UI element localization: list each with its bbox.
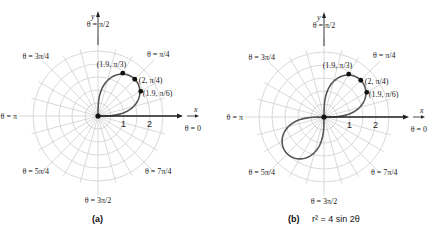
point-label: (1.9, π/6): [369, 90, 399, 99]
ring-label: 1: [121, 119, 126, 129]
plotted-point: [358, 78, 363, 83]
grid-spoke: [324, 117, 342, 184]
grid-spoke: [42, 116, 98, 172]
point-label: (1.9, π/3): [323, 61, 353, 70]
x-axis-label: x: [193, 105, 198, 114]
grid-spoke: [264, 83, 324, 118]
grid-spoke: [98, 116, 133, 176]
grid-spoke: [31, 98, 98, 116]
grid-spoke: [324, 99, 391, 117]
point-label: (2, π/4): [365, 77, 389, 86]
grid-spoke: [98, 98, 165, 116]
angle-label: θ = 3π/2: [85, 196, 112, 205]
grid-spoke: [38, 116, 98, 151]
plotted-point: [120, 71, 125, 76]
grid-spoke: [98, 116, 165, 134]
grid-spoke: [257, 117, 324, 135]
angle-label: θ = 3π/4: [248, 53, 275, 62]
panel-caption: (b): [288, 214, 300, 224]
ring-label: 2: [147, 119, 152, 129]
grid-spoke: [306, 50, 324, 117]
grid-spoke: [290, 57, 325, 117]
origin-pole: [95, 113, 100, 118]
angle-label: θ = 0: [185, 124, 201, 133]
angle-label: θ = π/4: [147, 50, 170, 59]
plotted-point: [132, 77, 137, 82]
origin-pole: [321, 114, 326, 119]
angle-label: θ = 3π/2: [311, 197, 338, 206]
panel-caption: (a): [92, 214, 103, 224]
angle-label: θ = π/4: [373, 51, 396, 60]
grid-spoke: [268, 61, 324, 117]
plotted-point: [346, 72, 351, 77]
angle-label: θ = π: [227, 113, 243, 122]
grid-spoke: [324, 117, 391, 135]
grid-spoke: [306, 117, 324, 184]
polar-graph-figure: xy12θ = π/2θ = π/4θ = 3π/4θ = πθ = 0θ = …: [0, 0, 428, 239]
point-label: (1.9, π/6): [143, 89, 173, 98]
y-axis-arrow-icon: [96, 11, 100, 17]
x-axis-arrow-icon: [177, 114, 183, 119]
x-axis-label: x: [419, 106, 424, 115]
point-label: (2, π/4): [139, 76, 163, 85]
grid-spoke: [31, 116, 98, 134]
x-axis-extension-arrow-icon: [195, 114, 199, 118]
grid-spoke: [64, 56, 99, 116]
angle-label: θ = 0: [411, 125, 427, 134]
angle-label: θ = 7π/4: [145, 167, 172, 176]
angle-label: θ = π/2: [87, 20, 110, 29]
grid-spoke: [80, 49, 98, 116]
y-axis-arrow-icon: [322, 12, 326, 18]
panel-b-polar-plot: xy12θ = π/2θ = π/4θ = 3π/4θ = πθ = 0θ = …: [227, 12, 427, 224]
panel-a-polar-plot: xy12θ = π/2θ = π/4θ = 3π/4θ = πθ = 0θ = …: [1, 11, 201, 224]
grid-spoke: [324, 117, 359, 177]
angle-label: θ = 3π/4: [22, 52, 49, 61]
angle-label: θ = 7π/4: [371, 168, 398, 177]
x-axis-extension-arrow-icon: [421, 115, 425, 119]
angle-label: θ = π: [1, 112, 17, 121]
grid-spoke: [98, 116, 116, 183]
grid-spoke: [38, 82, 98, 117]
angle-label: θ = π/2: [313, 21, 336, 30]
grid-spoke: [268, 117, 324, 173]
angle-label: θ = 5π/4: [22, 167, 49, 176]
grid-spoke: [80, 116, 98, 183]
grid-spoke: [64, 116, 99, 176]
point-label: (1.9, π/3): [97, 60, 127, 69]
ring-label: 2: [373, 120, 378, 130]
x-axis-arrow-icon: [403, 115, 409, 120]
curve-equation: r² = 4 sin 2θ: [312, 214, 360, 224]
angle-label: θ = 5π/4: [248, 168, 275, 177]
grid-spoke: [42, 60, 98, 116]
ring-label: 1: [347, 120, 352, 130]
grid-spoke: [257, 99, 324, 117]
